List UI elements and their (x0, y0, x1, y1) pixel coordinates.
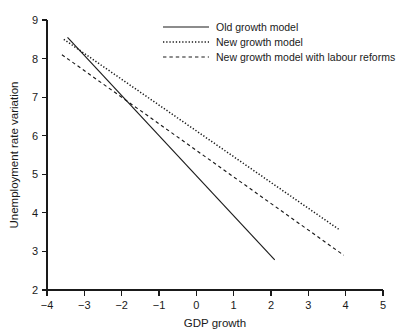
series-line-2 (62, 55, 344, 256)
y-tick-label: 2 (32, 284, 38, 296)
x-tick-label: 2 (268, 299, 274, 311)
x-tick-label: 3 (305, 299, 311, 311)
line-chart: 23456789 −4−3−2−1012345 GDP growth Unemp… (0, 0, 400, 333)
series-line-1 (64, 39, 340, 230)
y-tick-label: 9 (32, 14, 38, 26)
x-tick-label: 5 (380, 299, 386, 311)
x-tick-label: −2 (115, 299, 128, 311)
y-tick-label: 3 (32, 245, 38, 257)
chart-series-group (62, 37, 344, 260)
chart-legend: Old growth modelNew growth modelNew grow… (163, 21, 395, 63)
x-tick-label: 0 (193, 299, 199, 311)
x-tick-label: −3 (78, 299, 91, 311)
legend-label-1: New growth model (216, 36, 303, 48)
y-axis-title: Unemployment rate variation (8, 81, 20, 228)
y-tick-label: 5 (32, 168, 38, 180)
legend-label-2: New growth model with labour reforms (216, 51, 395, 63)
x-tick-label: 4 (343, 299, 349, 311)
x-tick-label: 1 (231, 299, 237, 311)
series-line-0 (68, 37, 275, 260)
chart-figure: 23456789 −4−3−2−1012345 GDP growth Unemp… (0, 0, 400, 333)
y-tick-label: 4 (32, 207, 38, 219)
x-axis-title: GDP growth (184, 317, 246, 329)
y-axis-ticks: 23456789 (32, 14, 47, 296)
x-tick-label: −1 (153, 299, 166, 311)
legend-label-0: Old growth model (216, 21, 298, 33)
y-tick-label: 7 (32, 91, 38, 103)
y-tick-label: 8 (32, 53, 38, 65)
y-tick-label: 6 (32, 130, 38, 142)
x-tick-label: −4 (41, 299, 54, 311)
x-axis-ticks: −4−3−2−1012345 (41, 290, 386, 311)
